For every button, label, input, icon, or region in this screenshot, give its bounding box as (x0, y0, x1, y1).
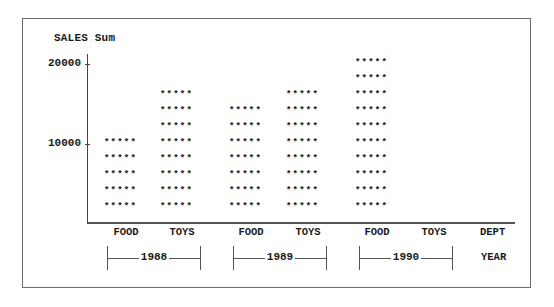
star-row: ***** (160, 90, 204, 100)
dept-label-1989-toys: TOYS (286, 226, 330, 238)
year-label-1990: 1990 (391, 251, 421, 263)
star-row: ***** (229, 122, 273, 132)
star-row: ***** (229, 106, 273, 116)
star-row: ***** (355, 122, 399, 132)
year-axis-label: YEAR (481, 251, 506, 263)
star-row: ***** (355, 90, 399, 100)
y-tick-label-10000: 10000 (31, 137, 81, 149)
dept-label-1990-toys: TOYS (412, 226, 456, 238)
dept-label-1990-food: FOOD (355, 226, 399, 238)
star-row: ***** (355, 138, 399, 148)
x-axis-line (87, 222, 515, 224)
star-row: ***** (286, 122, 330, 132)
star-row: ***** (160, 122, 204, 132)
star-row: ***** (286, 106, 330, 116)
star-row: ***** (355, 154, 399, 164)
star-row: ***** (229, 138, 273, 148)
star-row: ***** (355, 186, 399, 196)
star-row: ***** (229, 170, 273, 180)
star-row: ***** (229, 186, 273, 196)
star-row: ***** (160, 138, 204, 148)
star-row: ***** (104, 154, 148, 164)
year-group-1990: 1990 (359, 246, 453, 270)
y-axis-line (87, 54, 88, 223)
dept-label-1989-food: FOOD (229, 226, 273, 238)
star-row: ***** (286, 154, 330, 164)
star-row: ***** (229, 154, 273, 164)
dept-label-1988-toys: TOYS (160, 226, 204, 238)
y-tick-label-20000: 20000 (31, 57, 81, 69)
star-row: ***** (286, 90, 330, 100)
y-axis-title: SALES Sum (54, 32, 115, 44)
star-row: ***** (286, 170, 330, 180)
y-tick-10000 (85, 144, 90, 145)
star-row: ***** (104, 202, 148, 212)
star-row: ***** (355, 74, 399, 84)
star-row: ***** (355, 106, 399, 116)
star-row: ***** (355, 170, 399, 180)
star-row: ***** (229, 202, 273, 212)
star-row: ***** (355, 58, 399, 68)
year-label-1988: 1988 (139, 251, 169, 263)
star-row: ***** (160, 202, 204, 212)
star-row: ***** (286, 186, 330, 196)
star-row: ***** (104, 186, 148, 196)
dept-label-1988-food: FOOD (104, 226, 148, 238)
star-row: ***** (160, 154, 204, 164)
star-row: ***** (160, 106, 204, 116)
star-row: ***** (160, 170, 204, 180)
star-row: ***** (104, 138, 148, 148)
y-tick-20000 (85, 64, 90, 65)
year-label-1989: 1989 (265, 251, 295, 263)
dept-axis-label: DEPT (480, 226, 505, 238)
year-group-1988: 1988 (107, 246, 201, 270)
year-group-1989: 1989 (233, 246, 327, 270)
star-row: ***** (286, 202, 330, 212)
star-row: ***** (286, 138, 330, 148)
star-row: ***** (355, 202, 399, 212)
star-row: ***** (104, 170, 148, 180)
star-row: ***** (160, 186, 204, 196)
